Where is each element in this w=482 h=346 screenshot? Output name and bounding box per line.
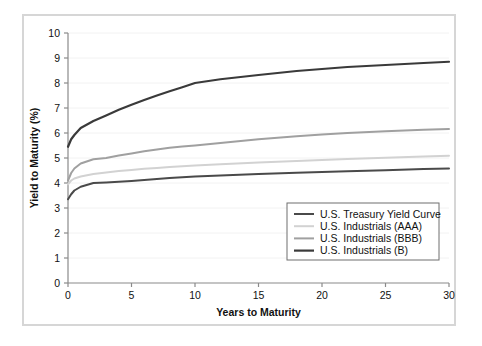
y-axis-ticks: 012345678910 xyxy=(48,27,68,289)
x-axis-ticks: 051015202530 xyxy=(65,283,455,301)
x-tick-label: 30 xyxy=(443,289,455,301)
y-tick-label: 7 xyxy=(54,102,60,114)
y-tick-label: 6 xyxy=(54,127,60,139)
series-line xyxy=(68,62,449,147)
legend: U.S. Treasury Yield CurveU.S. Industrial… xyxy=(287,203,441,260)
y-tick-label: 3 xyxy=(54,202,60,214)
x-tick-label: 15 xyxy=(253,289,265,301)
figure-root: 012345678910051015202530Years to Maturit… xyxy=(0,0,482,346)
legend-label: U.S. Treasury Yield Curve xyxy=(320,208,441,220)
x-axis-title: Years to Maturity xyxy=(216,306,301,318)
x-tick-label: 5 xyxy=(129,289,135,301)
yield-curve-chart: 012345678910051015202530Years to Maturit… xyxy=(0,0,482,346)
legend-label: U.S. Industrials (AAA) xyxy=(320,220,422,232)
series-line xyxy=(68,169,449,200)
y-tick-label: 4 xyxy=(54,177,60,189)
y-tick-label: 8 xyxy=(54,77,60,89)
x-tick-label: 10 xyxy=(189,289,201,301)
y-tick-label: 0 xyxy=(54,277,60,289)
y-tick-label: 9 xyxy=(54,52,60,64)
y-tick-label: 2 xyxy=(54,227,60,239)
x-tick-label: 25 xyxy=(380,289,392,301)
y-tick-label: 1 xyxy=(54,252,60,264)
x-tick-label: 20 xyxy=(316,289,328,301)
y-tick-label: 5 xyxy=(54,152,60,164)
legend-label: U.S. Industrials (BBB) xyxy=(320,232,422,244)
y-tick-label: 10 xyxy=(48,27,60,39)
x-tick-label: 0 xyxy=(65,289,71,301)
series-line xyxy=(68,129,449,181)
data-series xyxy=(68,62,449,200)
legend-label: U.S. Industrials (B) xyxy=(320,244,408,256)
y-axis-title: Yield to Maturity (%) xyxy=(28,108,40,209)
